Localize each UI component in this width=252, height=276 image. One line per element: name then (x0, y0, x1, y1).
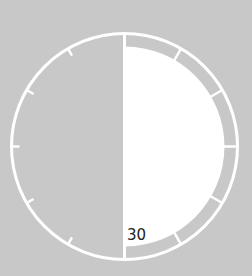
tick-mark (210, 196, 222, 203)
elapsed-sector (125, 47, 225, 247)
tick-mark (210, 90, 222, 97)
tick-mark (174, 232, 181, 244)
tick-mark (174, 49, 181, 61)
tick-mark (27, 199, 34, 203)
tick-mark (27, 90, 34, 94)
minutes-label: 30 (127, 228, 146, 243)
tick-mark (68, 49, 72, 56)
tick-mark (68, 237, 72, 244)
timer-dial[interactable] (0, 0, 252, 276)
